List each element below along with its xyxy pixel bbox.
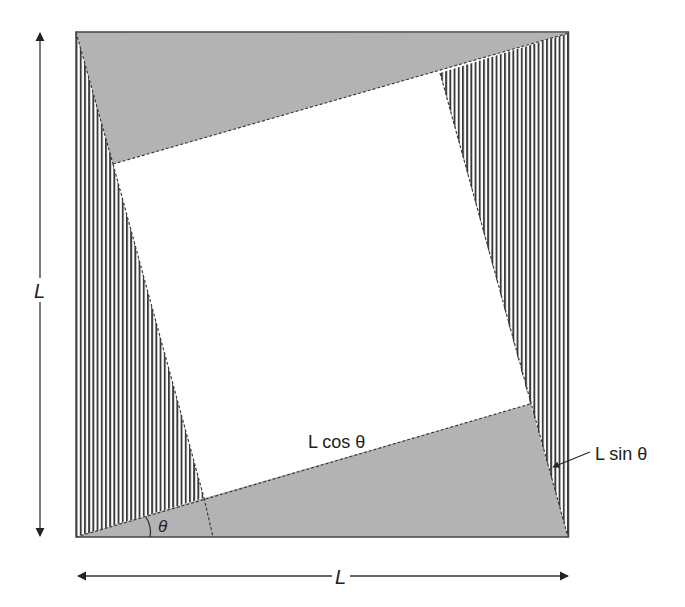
sin-label: L sin θ bbox=[595, 444, 647, 464]
horizontal-length-label: L bbox=[335, 566, 346, 588]
cos-label: L cos θ bbox=[308, 432, 365, 452]
vertical-dimension: L bbox=[34, 33, 45, 536]
angle-label: θ bbox=[158, 517, 168, 536]
vertical-length-label: L bbox=[34, 280, 45, 302]
pythagoras-diagram: θ L L L cos θ L sin θ bbox=[0, 0, 685, 607]
horizontal-dimension: L bbox=[78, 566, 568, 588]
